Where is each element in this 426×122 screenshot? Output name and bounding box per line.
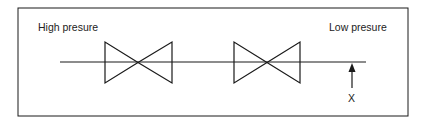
low-pressure-label: Low presure xyxy=(329,22,387,33)
arrow-up-icon xyxy=(349,63,356,88)
high-pressure-label: High presure xyxy=(38,22,98,33)
point-x-label: X xyxy=(348,93,355,104)
valve-diagram xyxy=(0,0,426,122)
